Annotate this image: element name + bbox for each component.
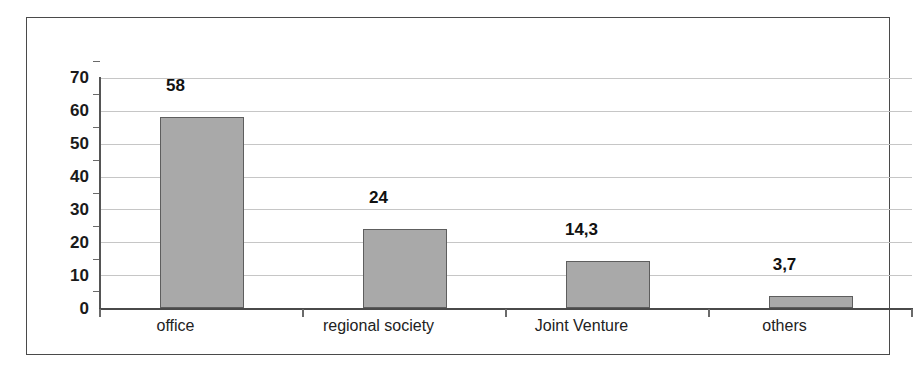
category-label-joint-venture: Joint Venture: [472, 318, 692, 334]
chart-frame: 70 60 50 40 30 20 10 0: [26, 17, 890, 355]
y-tick-label-text: 20: [45, 234, 89, 251]
x-axis-tick: [708, 309, 710, 317]
category-label-regional-society: regional society: [269, 318, 489, 334]
y-tick-label-0: 0: [39, 300, 89, 318]
bar-value-regional-society: 24: [319, 189, 439, 206]
category-label-office: office: [66, 318, 286, 334]
bar-office: [160, 117, 244, 308]
y-tick-label-60: 60: [39, 102, 89, 120]
bar-regional-society: [363, 229, 447, 308]
bar-value-office: 58: [116, 77, 236, 94]
bar-joint-venture: [566, 261, 650, 308]
y-axis-line: [99, 77, 101, 309]
category-label-others: others: [675, 318, 895, 334]
x-axis-tick: [99, 309, 101, 317]
y-tick-label-30: 30: [39, 201, 89, 219]
y-tick-label-70: 70: [39, 69, 89, 87]
bar-others: [769, 296, 853, 308]
bar-value-joint-venture: 14,3: [522, 221, 642, 238]
gridline-60: [100, 111, 912, 112]
y-tick-label-text: 50: [45, 135, 89, 152]
y-tick-label-text: 30: [45, 201, 89, 218]
y-tick-label-text: 70: [45, 69, 89, 86]
x-axis-tick: [911, 309, 913, 317]
y-tick-label-50: 50: [39, 135, 89, 153]
x-axis-tick: [505, 309, 507, 317]
y-tick-label-text: 0: [45, 300, 89, 317]
y-tick-label-20: 20: [39, 234, 89, 252]
x-axis-tick: [302, 309, 304, 317]
y-axis-tick: [93, 61, 100, 62]
bar-value-others: 3,7: [725, 256, 845, 273]
y-tick-label-text: 60: [45, 102, 89, 119]
y-tick-label-10: 10: [39, 267, 89, 285]
y-tick-label-40: 40: [39, 168, 89, 186]
y-tick-label-text: 10: [45, 267, 89, 284]
y-tick-label-text: 40: [45, 168, 89, 185]
